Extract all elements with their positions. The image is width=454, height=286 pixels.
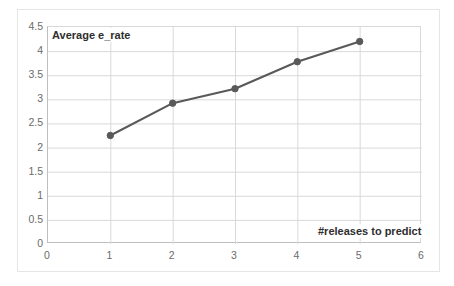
x-tick-label: 4 <box>276 250 316 261</box>
x-tick-label: 3 <box>214 250 254 261</box>
x-tick-label: 0 <box>27 250 67 261</box>
x-tick-label: 6 <box>401 250 441 261</box>
x-tick-label: 2 <box>152 250 192 261</box>
x-tick-label: 5 <box>339 250 379 261</box>
x-axis-tick-labels: 0 1 2 3 4 5 6 <box>0 0 454 286</box>
chart-figure: 4.5 4 3.5 3 2.5 2 1.5 1 0.5 0 0 1 2 3 4 … <box>0 0 454 286</box>
x-tick-label: 1 <box>89 250 129 261</box>
x-axis-title: #releases to predict <box>316 224 423 238</box>
y-axis-title: Average e_rate <box>50 28 132 42</box>
